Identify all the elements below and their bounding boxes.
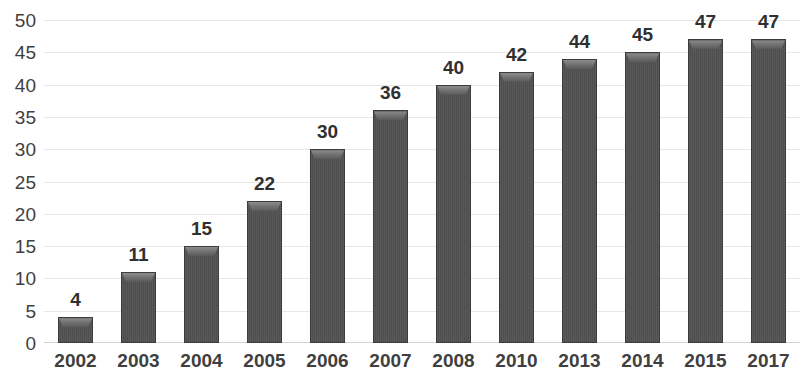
bar-top-bevel [689, 40, 722, 49]
bar-data-label: 30 [317, 122, 338, 141]
bar-data-label: 42 [506, 45, 527, 64]
x-tick-label: 2010 [495, 350, 537, 373]
gridline [44, 117, 800, 118]
bar-data-label: 40 [443, 58, 464, 77]
x-tick-label: 2015 [684, 350, 726, 373]
bar [688, 39, 723, 343]
bar-top-bevel [59, 318, 92, 327]
x-tick-label: 2006 [306, 350, 348, 373]
bar-top-bevel [122, 273, 155, 282]
y-tick-label: 5 [0, 301, 36, 320]
y-tick-label: 45 [0, 43, 36, 62]
bar-data-label: 22 [254, 174, 275, 193]
bar [562, 59, 597, 343]
bar [121, 272, 156, 343]
bar-data-label: 47 [695, 12, 716, 31]
gridline [44, 52, 800, 53]
bar [436, 85, 471, 343]
y-tick-label: 20 [0, 204, 36, 223]
bar-data-label: 44 [569, 32, 590, 51]
x-tick-label: 2004 [180, 350, 222, 373]
gridline [44, 246, 800, 247]
y-tick-label: 25 [0, 172, 36, 191]
x-tick-label: 2014 [621, 350, 663, 373]
bar-data-label: 11 [128, 245, 148, 264]
bar [373, 110, 408, 343]
bar [625, 52, 660, 343]
x-tick-label: 2017 [747, 350, 789, 373]
gridline [44, 20, 800, 21]
y-tick-label: 10 [0, 269, 36, 288]
x-axis: 2002200320042005200620072008201020132014… [44, 350, 800, 380]
gridline [44, 85, 800, 86]
gridline [44, 311, 800, 312]
y-tick-label: 35 [0, 107, 36, 126]
gridline [44, 278, 800, 279]
bar-top-bevel [374, 111, 407, 120]
bar [499, 72, 534, 343]
bar [310, 149, 345, 343]
gridline [44, 149, 800, 150]
y-tick-label: 30 [0, 140, 36, 159]
bar-data-label: 36 [380, 83, 401, 102]
bar [184, 246, 219, 343]
bar-top-bevel [563, 60, 596, 69]
bar [247, 201, 282, 343]
x-tick-label: 2002 [54, 350, 96, 373]
x-tick-label: 2013 [558, 350, 600, 373]
bar-top-bevel [626, 53, 659, 62]
x-tick-label: 2005 [243, 350, 285, 373]
x-tick-label: 2003 [117, 350, 159, 373]
y-tick-label: 0 [0, 334, 36, 353]
bar-top-bevel [248, 202, 281, 211]
x-tick-label: 2007 [369, 350, 411, 373]
bar-top-bevel [500, 73, 533, 82]
bar-data-label: 4 [70, 290, 81, 309]
gridline [44, 214, 800, 215]
y-tick-label: 15 [0, 237, 36, 256]
bar-data-label: 45 [632, 25, 653, 44]
y-tick-label: 50 [0, 11, 36, 30]
gridline [44, 182, 800, 183]
x-tick-label: 2008 [432, 350, 474, 373]
bar [751, 39, 786, 343]
bar [58, 317, 93, 343]
y-tick-label: 40 [0, 75, 36, 94]
bar-top-bevel [752, 40, 785, 49]
bar-data-label: 15 [191, 219, 212, 238]
plot-area: 41115223036404244454747 [44, 20, 800, 343]
bar-top-bevel [437, 86, 470, 95]
bar-top-bevel [185, 247, 218, 256]
bar-data-label: 47 [758, 12, 779, 31]
y-axis: 50454035302520151050 [0, 20, 36, 343]
bar-top-bevel [311, 150, 344, 159]
axis-baseline [44, 342, 800, 343]
bar-chart: 50454035302520151050 4111522303640424445… [0, 0, 804, 380]
